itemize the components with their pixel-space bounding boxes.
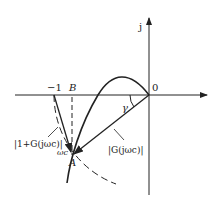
crossover-label: ωc — [57, 148, 69, 157]
nyquist-curve — [67, 77, 149, 183]
gamma-label: γ — [122, 102, 128, 113]
nyquist-diagram: j 0 −1 B A ωc γ |1+G(jωc)| |G(jωc)| — [0, 0, 218, 204]
point-a-label: A — [68, 157, 76, 168]
minus-one-label: −1 — [47, 82, 62, 93]
point-b-label: B — [68, 82, 76, 93]
leader-g — [114, 129, 124, 140]
g-magnitude-label: |G(jωc)| — [108, 145, 143, 156]
leader-one-plus-g — [48, 127, 58, 137]
origin-label: 0 — [152, 82, 158, 93]
unit-circle-arc — [54, 95, 116, 184]
one-plus-g-label: |1+G(jωc)| — [14, 139, 63, 150]
imag-axis-label: j — [138, 21, 142, 32]
gamma-arc — [130, 95, 134, 107]
